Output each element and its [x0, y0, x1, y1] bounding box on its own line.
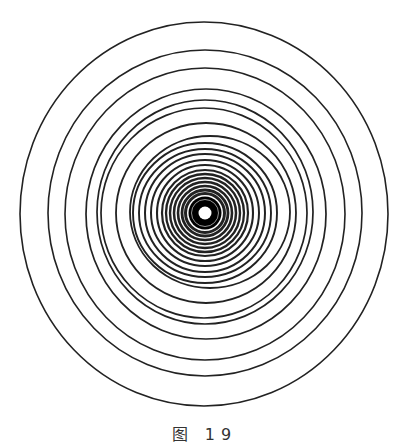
dark-core: [189, 197, 222, 230]
figure-caption: 图 19: [0, 421, 409, 445]
center-dot: [199, 207, 212, 220]
